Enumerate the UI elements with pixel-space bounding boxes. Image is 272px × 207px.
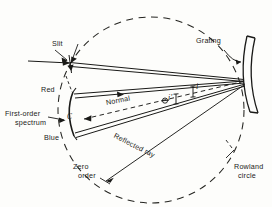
- zero-order-label-line2: order: [78, 172, 96, 181]
- angle-of-diffraction-label: i': [168, 94, 172, 103]
- rowland-circle-leader: [226, 140, 234, 158]
- grating-element: [243, 36, 258, 113]
- grating-label: Grating: [196, 37, 221, 46]
- point-c-label: C: [67, 113, 72, 122]
- rowland-circle-label-line2: circle: [238, 172, 256, 181]
- incident-beam: [70, 63, 244, 82]
- optical-diagram-svg: [0, 0, 272, 207]
- angle-of-incidence-label: i: [196, 83, 198, 92]
- red-ray: [74, 81, 244, 98]
- first-order-spectrum-label-line2: spectrum: [15, 119, 46, 128]
- red-label: Red: [41, 86, 55, 95]
- slit-leader-arrow: [55, 50, 68, 63]
- diagram-canvas: Slit Grating Red Blue C First-order spec…: [0, 0, 272, 207]
- spectrum-leader-arrow: [48, 117, 66, 123]
- blue-label: Blue: [44, 134, 59, 143]
- grating-leader-arrow: [224, 50, 241, 65]
- slit-marks: [66, 44, 78, 92]
- slit-label: Slit: [52, 40, 63, 49]
